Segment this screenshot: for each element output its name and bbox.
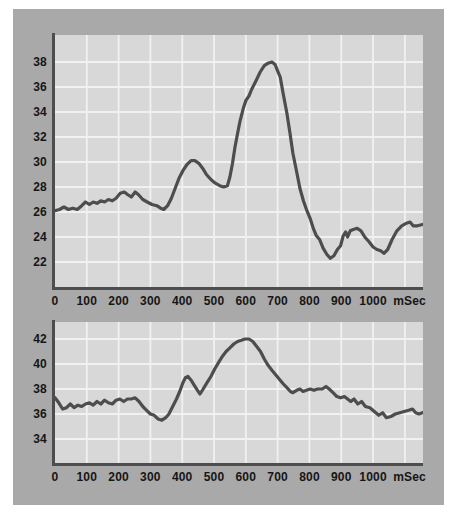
top-chart-y-tick-label: 34 xyxy=(11,104,47,120)
top-chart-x-axis-line xyxy=(52,287,423,290)
screenshot-page: 3836343230282624220100200300400500600700… xyxy=(0,0,459,518)
top-chart-plot-area xyxy=(55,35,423,287)
bottom-chart-y-axis-line xyxy=(52,320,55,466)
top-chart-canvas xyxy=(55,35,423,287)
top-chart-y-tick-label: 38 xyxy=(11,54,47,70)
bottom-chart-x-axis-unit-label: mSec xyxy=(386,469,434,485)
top-chart-y-tick-label: 22 xyxy=(11,254,47,270)
bottom-chart-data-line xyxy=(55,339,422,420)
top-chart-y-tick-label: 28 xyxy=(11,179,47,195)
top-chart-y-tick-label: 32 xyxy=(11,129,47,145)
bottom-chart-canvas xyxy=(55,322,423,463)
bottom-chart-y-tick-label: 38 xyxy=(11,381,47,397)
top-chart-y-tick-label: 26 xyxy=(11,204,47,220)
top-chart-y-axis-line xyxy=(52,33,55,290)
bottom-chart-y-tick-label: 42 xyxy=(11,331,47,347)
top-chart-data-line xyxy=(55,62,422,258)
bottom-chart-y-tick-label: 40 xyxy=(11,356,47,372)
bottom-chart-y-tick-label: 34 xyxy=(11,431,47,447)
chart-panel: 3836343230282624220100200300400500600700… xyxy=(13,9,444,505)
bottom-chart-y-tick-label: 36 xyxy=(11,406,47,422)
bottom-chart-x-axis-line xyxy=(52,463,423,466)
top-chart-x-axis-unit-label: mSec xyxy=(386,293,434,309)
top-chart-y-tick-label: 30 xyxy=(11,154,47,170)
top-chart-y-tick-label: 36 xyxy=(11,79,47,95)
top-chart-y-tick-label: 24 xyxy=(11,229,47,245)
bottom-chart-plot-area xyxy=(55,322,423,463)
